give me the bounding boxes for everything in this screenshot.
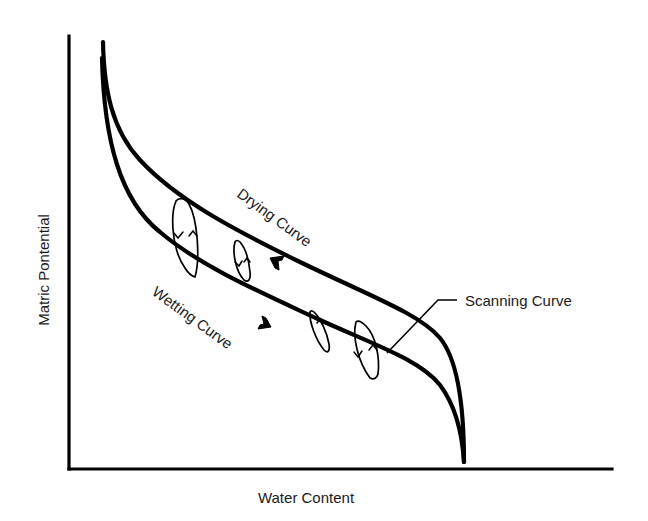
drying-curve <box>103 42 464 462</box>
wetting-curve-label: Wetting Curve <box>149 283 236 352</box>
wetting-curve <box>102 58 464 462</box>
hysteresis-diagram: Matric Pontential Water Content Drying C… <box>0 0 648 521</box>
scanning-loop-4 <box>354 321 379 379</box>
drying-direction-arrow-icon <box>270 256 284 270</box>
scanning-loop-1 <box>173 199 198 277</box>
scanning-curve-label: Scanning Curve <box>465 292 572 309</box>
drying-curve-label: Drying Curve <box>234 185 315 250</box>
x-axis-label: Water Content <box>258 489 355 506</box>
diagram-canvas: Matric Pontential Water Content Drying C… <box>0 0 648 521</box>
wetting-direction-arrow-icon <box>258 316 271 329</box>
loop-arrow-down-icon <box>174 232 183 238</box>
scanning-loop-2 <box>234 241 250 282</box>
loop-arrow-up-icon <box>244 258 250 262</box>
y-axis-label: Matric Pontential <box>35 214 52 326</box>
